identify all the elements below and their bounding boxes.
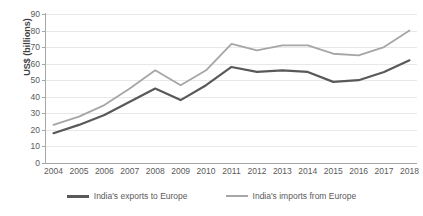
legend-label: India's exports to Europe	[94, 192, 188, 201]
y-tick-mark	[42, 64, 45, 65]
chart-legend: India's exports to EuropeIndia's imports…	[0, 192, 423, 201]
legend-item[interactable]: India's exports to Europe	[67, 192, 188, 201]
legend-swatch	[67, 195, 89, 198]
y-tick-mark	[42, 97, 45, 98]
legend-label: India's imports from Europe	[253, 192, 357, 201]
y-tick-mark	[42, 14, 45, 15]
series-lines	[0, 0, 423, 216]
series-line	[54, 31, 410, 125]
y-tick-mark	[42, 47, 45, 48]
y-tick-mark	[42, 113, 45, 114]
y-tick-mark	[42, 130, 45, 131]
line-chart: US$ (billions) 9080706050403020100 20042…	[0, 0, 423, 216]
y-tick-mark	[42, 163, 45, 164]
series-line	[54, 60, 410, 133]
legend-swatch	[226, 195, 248, 197]
y-tick-mark	[42, 146, 45, 147]
y-tick-mark	[42, 80, 45, 81]
legend-item[interactable]: India's imports from Europe	[226, 192, 357, 201]
y-tick-mark	[42, 31, 45, 32]
